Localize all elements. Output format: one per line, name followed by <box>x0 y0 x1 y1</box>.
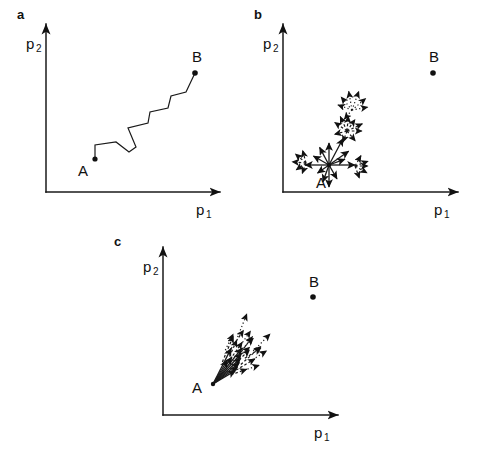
panel-b-y-axis-subscript: 2 <box>273 43 279 54</box>
panel-b-arrow-h2-5 <box>352 107 368 110</box>
panel-a-y-axis-subscript: 2 <box>36 43 42 54</box>
panel-c-label-a: A <box>192 379 202 396</box>
panel-c-y-axis-label: p <box>143 258 151 275</box>
panel-b-point-b <box>430 70 436 76</box>
panel-c: c p 2 p 1 B A <box>114 234 338 443</box>
panel-c-point-b <box>310 294 316 300</box>
panel-b-arrow-h3-1 <box>295 154 306 163</box>
panel-c-label-b: B <box>309 273 319 290</box>
panel-b-arrow-h1-6 <box>343 131 347 142</box>
panel-b: b p 2 p 1 B A <box>254 7 458 220</box>
directed-arrow-cone <box>211 314 270 386</box>
panel-c-arrow-dotted-2 <box>253 334 270 351</box>
figure-root: a p 2 p 1 A B b p 2 p <box>0 0 485 452</box>
panel-a-y-axis-label: p <box>26 35 34 52</box>
panel-c-letter: c <box>114 234 121 249</box>
panel-b-x-axis-label: p <box>434 201 442 218</box>
panel-b-arrow-h0-10 <box>329 165 337 179</box>
panel-b-arrow-h2-6 <box>344 110 352 119</box>
panel-b-letter: b <box>254 7 262 22</box>
panel-b-arrow-h1-7 <box>347 131 355 141</box>
panel-b-arrow-h1-4 <box>335 122 347 131</box>
panel-b-x-axis-subscript: 1 <box>444 209 450 220</box>
panel-a-axes: p 2 p 1 <box>26 24 220 220</box>
panel-b-arrow-h4-2 <box>355 166 359 178</box>
panel-c-arrow-dotted-1 <box>250 351 267 362</box>
panel-b-point-a <box>327 163 331 167</box>
panel-a-label-a: A <box>78 162 88 179</box>
panel-c-y-axis-subscript: 2 <box>153 266 159 277</box>
panel-b-arrow-h1-5 <box>334 131 347 134</box>
panel-b-arrow-h1-0 <box>347 124 362 131</box>
panel-c-x-axis-label: p <box>314 424 322 441</box>
panel-b-y-axis-label: p <box>263 35 271 52</box>
figure-canvas: a p 2 p 1 A B b p 2 p <box>0 0 485 452</box>
panel-a-letter: a <box>17 7 25 22</box>
panel-b-label-a: A <box>316 174 326 191</box>
panel-c-arrow-dotted-5 <box>238 314 247 337</box>
panel-b-arrow-h2-4 <box>338 105 352 110</box>
panel-a-x-axis-subscript: 1 <box>206 209 212 220</box>
panel-a-label-b: B <box>192 48 202 65</box>
panel-c-arrow-dashed-9 <box>231 330 244 349</box>
panel-a-point-a <box>92 156 97 161</box>
panel-c-x-axis-subscript: 1 <box>324 432 330 443</box>
panel-c-point-a <box>211 382 215 386</box>
isotropic-arrow-burst <box>292 91 368 187</box>
panel-a: a p 2 p 1 A B <box>17 7 220 220</box>
random-walk-path <box>95 73 195 159</box>
panel-a-x-axis-label: p <box>196 201 204 218</box>
panel-a-point-b <box>192 70 198 76</box>
panel-b-label-b: B <box>429 48 439 65</box>
panel-c-arrow-dotted-4 <box>238 331 250 348</box>
panel-b-arrow-h3-3 <box>296 163 306 170</box>
panel-b-arrow-h4-0 <box>355 161 368 166</box>
panel-b-arrow-h1-3 <box>340 117 347 132</box>
